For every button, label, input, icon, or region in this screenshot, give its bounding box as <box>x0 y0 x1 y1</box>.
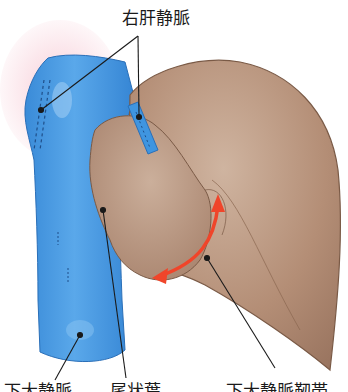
anatomy-diagram: 右肝静脈 下大静脈 尾状葉 下大静脈靭帯 <box>0 0 348 392</box>
label-right-hepatic-vein: 右肝静脈 <box>122 8 190 28</box>
diagram-canvas <box>0 0 348 392</box>
label-inferior-vena-cava: 下大静脈 <box>4 381 72 392</box>
label-caudate-lobe: 尾状葉 <box>110 381 161 392</box>
label-ivc-ligament: 下大静脈靭帯 <box>226 381 328 392</box>
